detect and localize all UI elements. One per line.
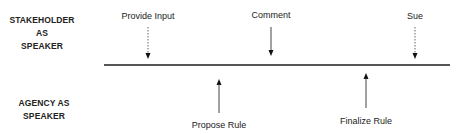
event-label-propose-rule: Propose Rule bbox=[192, 120, 247, 130]
arrow-up-icon bbox=[366, 73, 367, 74]
event-label-provide-input: Provide Input bbox=[121, 11, 174, 21]
arrow-down-icon bbox=[271, 27, 272, 28]
timeline-line bbox=[104, 64, 450, 66]
role-agency-line2: SPEAKER bbox=[16, 110, 72, 123]
role-stakeholder: STAKEHOLDER AS SPEAKER bbox=[8, 14, 76, 53]
arrow-down-icon bbox=[415, 27, 416, 28]
event-label-comment: Comment bbox=[251, 10, 290, 20]
role-stakeholder-line2: SPEAKER bbox=[8, 40, 76, 53]
event-label-sue: Sue bbox=[407, 11, 423, 21]
arrow-down-icon bbox=[148, 27, 149, 28]
arrow-up-icon bbox=[219, 79, 220, 80]
event-label-finalize-rule: Finalize Rule bbox=[340, 116, 392, 126]
role-agency-line1: AGENCY AS bbox=[16, 97, 72, 110]
role-agency: AGENCY AS SPEAKER bbox=[16, 97, 72, 123]
role-stakeholder-line1: STAKEHOLDER AS bbox=[8, 14, 76, 40]
